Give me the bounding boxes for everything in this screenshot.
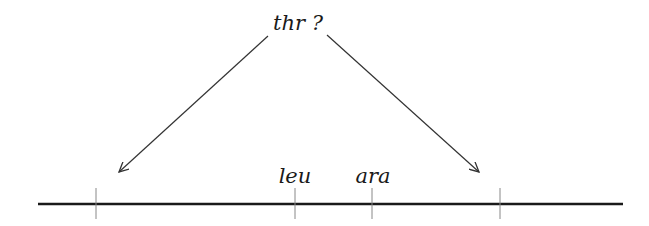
question-label-thr: thr ?: [273, 11, 324, 35]
gene-map-diagram: leu ara thr ?: [0, 0, 649, 226]
marker-label-ara: ara: [355, 164, 390, 188]
arrow-right-icon: [327, 35, 479, 172]
arrow-left-icon: [119, 36, 268, 172]
marker-label-leu: leu: [279, 164, 312, 188]
